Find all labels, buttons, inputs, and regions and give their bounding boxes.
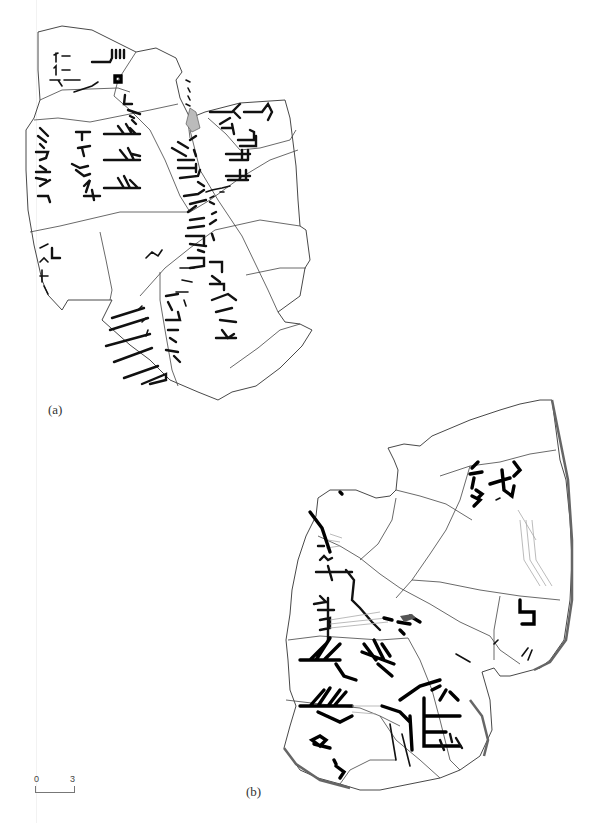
panel-b-label: (b) [246,784,261,800]
panel-a-label: (a) [48,402,62,418]
panel-b-drawing [0,0,595,823]
figure: (a) (b) 0 3 [0,0,595,823]
scale-bar: 0 3 [34,776,74,790]
scale-end-label: 3 [70,774,75,784]
scale-bar-line [35,786,75,793]
scale-start-label: 0 [34,774,39,784]
